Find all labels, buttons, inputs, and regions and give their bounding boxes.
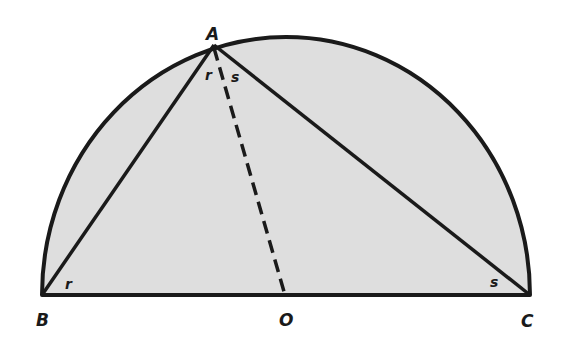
point-label-C: C bbox=[521, 311, 534, 331]
angle-label-B: r bbox=[65, 276, 73, 292]
semicircle-region bbox=[42, 37, 530, 295]
point-label-A: A bbox=[204, 24, 219, 44]
angle-label-A-left: r bbox=[205, 67, 213, 83]
point-label-B: B bbox=[36, 310, 49, 330]
semicircle-diagram: A B O C r s r s bbox=[0, 0, 571, 351]
angle-label-C: s bbox=[490, 274, 498, 290]
angle-label-A-right: s bbox=[231, 69, 239, 85]
point-label-O: O bbox=[279, 310, 293, 330]
